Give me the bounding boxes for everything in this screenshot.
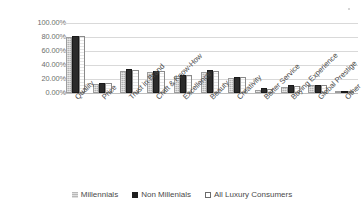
scan-artifact-dot [348,8,350,10]
y-axis-tick-label: 40.00% [12,60,66,69]
legend-item[interactable]: Non Millenials [132,190,191,199]
legend-item[interactable]: Millennials [72,190,118,199]
legend-label: Non Millenials [141,190,191,199]
legend-swatch-icon [72,192,78,198]
y-axis-tick-label: 80.00% [12,32,66,41]
legend-swatch-icon [132,192,138,198]
chart-legend: MillennialsNon MillenialsAll Luxury Cons… [0,190,364,199]
y-axis-tick-label: 100.00% [12,18,66,27]
x-axis-labels: QualityPriceTrust in BrandCraft & Know-H… [62,95,358,167]
bar-chart: 100.00%80.00%60.00%40.00%20.00%0.00% Qua… [0,0,364,214]
legend-swatch-icon [205,192,211,198]
y-axis-tick-label: 0.00% [12,88,66,97]
legend-label: Millennials [81,190,118,199]
y-axis-tick-label: 20.00% [12,74,66,83]
y-axis-tick-label: 60.00% [12,46,66,55]
legend-label: All Luxury Consumers [214,190,292,199]
legend-item[interactable]: All Luxury Consumers [205,190,292,199]
